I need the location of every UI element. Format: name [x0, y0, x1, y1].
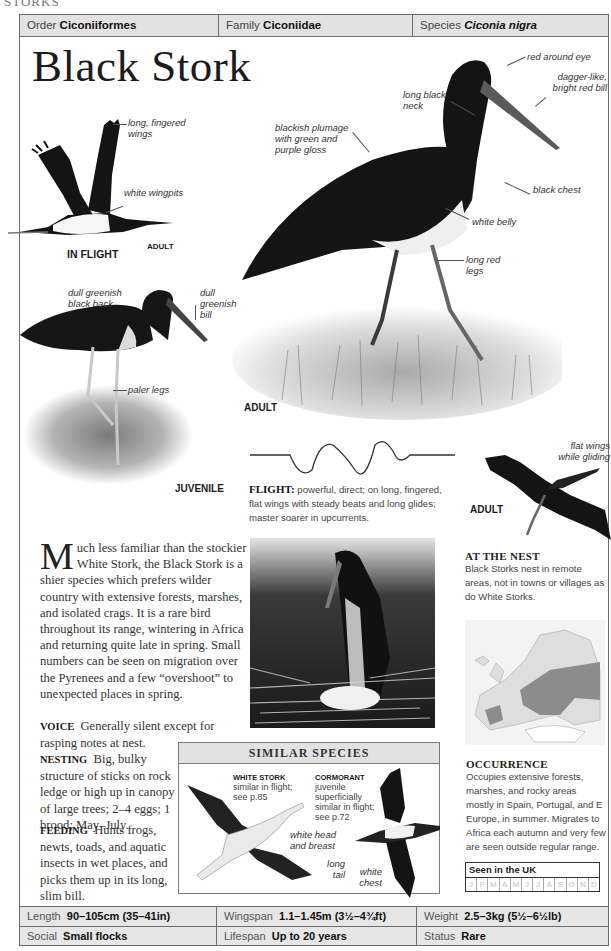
- juvenile-stork-illustration: [18, 285, 218, 485]
- running-head: STORKS: [4, 0, 60, 10]
- month-jun: J: [521, 878, 532, 891]
- flight-description: FLIGHT: powerful, direct; on long, finge…: [249, 482, 449, 525]
- voice-heading: VOICE: [40, 721, 74, 732]
- month-mar: M: [487, 878, 498, 891]
- social-value: Small flocks: [63, 930, 127, 942]
- month-jan: J: [466, 878, 476, 891]
- label-white-belly: white belly: [472, 216, 532, 227]
- family-value: Ciconiidae: [263, 19, 321, 31]
- label-white-wingpits: white wingpits: [124, 187, 184, 198]
- seen-in-uk-title: Seen in the UK: [466, 863, 599, 878]
- species-value: Ciconia nigra: [464, 19, 537, 31]
- intro-paragraph: Much less familiar than the stockier Whi…: [40, 540, 250, 702]
- nesting-heading: NESTING: [40, 754, 87, 765]
- order-value: Ciconiiformes: [60, 19, 137, 31]
- white-stork-name: WHITE STORK: [233, 773, 303, 782]
- weight-label: Weight: [424, 910, 458, 922]
- label-bill: dagger-like, bright red bill: [547, 71, 607, 93]
- nesting-section: NESTING Big, bulky structure of sticks o…: [40, 751, 180, 833]
- month-nov: N: [577, 878, 588, 891]
- lifespan-label: Lifespan: [224, 930, 266, 942]
- family-cell: Family Ciconiidae: [218, 15, 412, 36]
- label-red-around-eye: red around eye: [527, 51, 607, 62]
- cormorant-info: CORMORANT juvenile superficially similar…: [315, 773, 375, 822]
- feeding-section: FEEDING Hunts frogs, newts, toads, and a…: [40, 822, 175, 904]
- wingspan-value: 1.1–1.45m (3½–4¾ft): [279, 910, 386, 922]
- status-cell: Status Rare: [416, 927, 608, 946]
- page-title: Black Stork: [32, 40, 251, 92]
- month-apr: A: [499, 878, 510, 891]
- caption-in-flight-adult: ADULT: [147, 242, 174, 251]
- cormorant-text: juvenile superficially similar in flight…: [315, 782, 375, 822]
- month-oct: O: [566, 878, 577, 891]
- order-cell: Order Ciconiiformes: [20, 15, 218, 36]
- label-blackish-plumage: blackish plumage with green and purple g…: [275, 122, 355, 155]
- weight-value: 2.5–3kg (5½–6½lb): [464, 910, 561, 922]
- label-long-red-legs: long red legs: [466, 254, 516, 276]
- at-the-nest-heading: AT THE NEST: [465, 550, 605, 562]
- occurrence-section: OCCURRENCE Occupies extensive forests, m…: [466, 758, 606, 854]
- dropcap: M: [40, 542, 74, 570]
- lifespan-cell: Lifespan Up to 20 years: [216, 927, 416, 946]
- flight-heading: FLIGHT:: [249, 483, 295, 495]
- label-paler-legs: paler legs: [128, 384, 188, 395]
- label-long-fingered-wings: long, fingered wings: [128, 117, 198, 139]
- label-long-black-neck: long black neck: [403, 89, 463, 111]
- similar-species-heading: SIMILAR SPECIES: [179, 743, 439, 764]
- length-value: 90–105cm (35–41in): [67, 910, 170, 922]
- social-cell: Social Small flocks: [20, 927, 216, 946]
- range-map: [465, 620, 605, 745]
- label-white-chest: white chest: [352, 866, 382, 888]
- status-label: Status: [424, 930, 455, 942]
- length-cell: Length 90–105cm (35–41in): [20, 907, 216, 926]
- seen-in-uk-calendar: Seen in the UK J F M A M J J A S O N D: [465, 862, 600, 892]
- at-the-nest-text: Black Storks nest in remote areas, not i…: [465, 562, 605, 604]
- month-jul: J: [532, 878, 543, 891]
- month-may: M: [510, 878, 521, 891]
- species-cell: Species Ciconia nigra: [412, 15, 608, 36]
- taxonomy-header: Order Ciconiiformes Family Ciconiidae Sp…: [19, 14, 609, 37]
- cormorant-name: CORMORANT: [315, 773, 375, 782]
- family-label: Family: [226, 19, 260, 31]
- social-label: Social: [27, 930, 57, 942]
- nest-photo: [250, 538, 435, 728]
- label-juvenile-back: dull greenish black back: [68, 287, 143, 309]
- length-label: Length: [27, 910, 61, 922]
- label-flat-wings-gliding: flat wings while gliding: [548, 440, 610, 462]
- adult-stork-illustration: [222, 50, 562, 420]
- wingspan-cell: Wingspan 1.1–1.45m (3½–4¾ft): [216, 907, 416, 926]
- gliding-stork-illustration: [485, 450, 611, 550]
- month-aug: A: [543, 878, 554, 891]
- weight-cell: Weight 2.5–3kg (5½–6½lb): [416, 907, 608, 926]
- occurrence-text: Occupies extensive forests, marshes, and…: [466, 770, 606, 854]
- month-sep: S: [554, 878, 565, 891]
- label-juvenile-bill: dull greenish bill: [200, 287, 250, 320]
- label-black-chest: black chest: [533, 184, 593, 195]
- lifespan-value: Up to 20 years: [272, 930, 347, 942]
- white-stork-info: WHITE STORK similar in flight; see p.85: [233, 773, 303, 802]
- month-dec: D: [588, 878, 599, 891]
- label-long-tail: long tail: [323, 858, 345, 880]
- stats-footer: Length 90–105cm (35–41in) Wingspan 1.1–1…: [19, 906, 609, 946]
- status-value: Rare: [461, 930, 485, 942]
- occurrence-heading: OCCURRENCE: [466, 758, 606, 770]
- flight-pattern-wave-icon: [250, 440, 455, 480]
- caption-adult-main: ADULT: [244, 402, 277, 413]
- white-stork-text: similar in flight; see p.85: [233, 782, 303, 802]
- month-row: J F M A M J J A S O N D: [466, 878, 599, 891]
- species-label: Species: [420, 19, 461, 31]
- at-the-nest-section: AT THE NEST Black Storks nest in remote …: [465, 550, 605, 604]
- caption-juvenile: JUVENILE: [175, 483, 224, 494]
- month-feb: F: [476, 878, 487, 891]
- wingspan-label: Wingspan: [224, 910, 273, 922]
- label-white-head-breast: white head and breast: [290, 829, 350, 851]
- order-label: Order: [27, 19, 56, 31]
- caption-in-flight: IN FLIGHT: [67, 248, 118, 260]
- feeding-heading: FEEDING: [40, 825, 88, 836]
- caption-gliding-adult: ADULT: [470, 504, 503, 515]
